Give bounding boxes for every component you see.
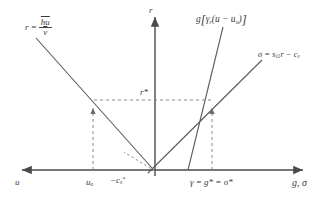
curve-label-r-hu-over-v: r = hu v: [25, 18, 52, 38]
curve-label-g-close-bracket: ]: [242, 13, 247, 27]
curve-label-sigma: σ = s11r − cs: [258, 50, 300, 59]
curve-label-sigma-subs: s: [297, 53, 299, 59]
tick-label-neg-cs: −cs*: [110, 176, 125, 186]
tick-label-neg-cs-superscript: *: [122, 176, 125, 182]
diagram-canvas: r g, σ u uo −cs* γ = g* = σ* r* σ = s11r…: [0, 0, 323, 201]
vertical-axis-label: r: [149, 6, 153, 15]
curve-g-gamma-line: [188, 27, 223, 170]
horizontal-axis-label-left: u: [15, 178, 20, 187]
tick-label-u0: uo: [86, 178, 93, 188]
curve-label-sigma-mid: r − c: [280, 49, 297, 59]
curve-label-g-inner: (u − u: [212, 14, 236, 24]
curve-r-equals-hu-over-v: [36, 38, 155, 171]
curve-label-sigma-lhs: σ = s: [258, 49, 276, 59]
fraction: hu v: [39, 18, 52, 38]
fraction-denominator: v: [41, 28, 49, 37]
tick-label-neg-cs-base: −c: [110, 175, 120, 185]
curve-sigma-line: [148, 60, 262, 173]
label-r-star: r*: [140, 88, 148, 97]
tick-label-gamma-solution: γ = g* = σ*: [190, 178, 233, 187]
curve-label-g-gamma: g[γr(u − uo)]: [196, 14, 247, 27]
tick-label-u0-subscript: o: [91, 181, 94, 187]
horizontal-axis-label-right: g, σ: [292, 178, 307, 188]
curve-label-r-lhs: r =: [25, 23, 37, 32]
